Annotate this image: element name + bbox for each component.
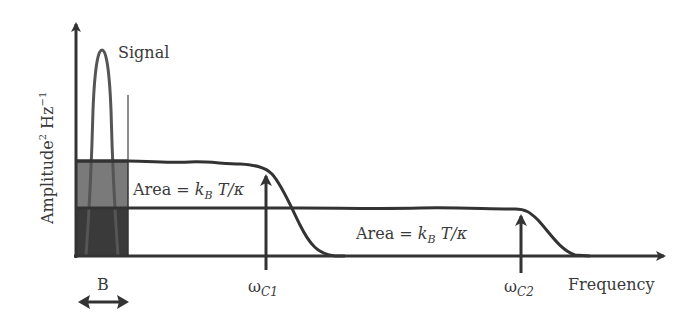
bandwidth-double-arrow-icon — [78, 295, 129, 309]
area-label-1: Area = kB T/κ — [132, 180, 245, 202]
x-axis-label: Frequency — [568, 275, 655, 294]
signal-label: Signal — [118, 43, 169, 62]
noise-spectrum-diagram: Signal Amplitude2 Hz−1 Area = kB T/κ Are… — [0, 0, 688, 321]
bandwidth-label: B — [97, 275, 109, 294]
cutoff-1-label: ωC1 — [248, 277, 278, 299]
area-label-2: Area = kB T/κ — [355, 224, 468, 246]
y-axis-label: Amplitude2 Hz−1 — [37, 92, 57, 225]
shaded-region-lower — [76, 208, 128, 256]
cutoff-2-label: ωC2 — [504, 277, 534, 299]
noise-curve-2 — [76, 208, 590, 256]
shaded-region-upper — [76, 161, 128, 208]
